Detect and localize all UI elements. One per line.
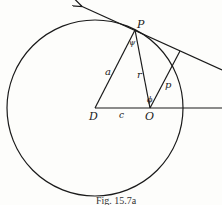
geometry-diagram: P ψ a r p ϕ D c O Fig. 15.7a: [0, 0, 222, 205]
figure-canvas: P ψ a r p ϕ D c O Fig. 15.7a: [0, 0, 222, 205]
tangent-line: [81, 6, 222, 70]
label-psi: ψ: [129, 38, 136, 47]
label-p: p: [165, 79, 172, 90]
label-r: r: [137, 69, 143, 80]
figure-caption: Fig. 15.7a: [96, 195, 137, 205]
label-P: P: [136, 18, 145, 31]
label-D: D: [88, 110, 98, 123]
label-phi: ϕ: [147, 95, 153, 104]
label-c: c: [119, 110, 124, 120]
label-a: a: [105, 66, 111, 77]
label-O: O: [145, 110, 154, 123]
